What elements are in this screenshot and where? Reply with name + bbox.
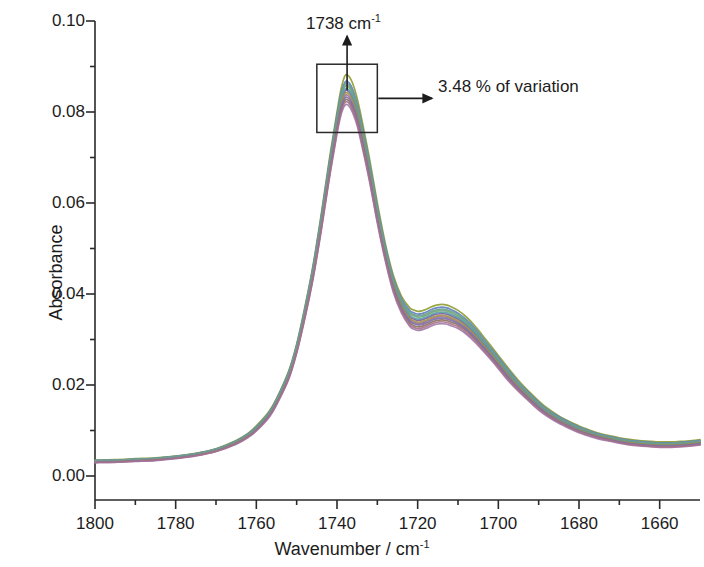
- x-tick-label: 1800: [76, 514, 114, 534]
- spectrum-curve: [95, 95, 700, 462]
- y-tick-label: 0.10: [37, 11, 85, 31]
- x-tick-label: 1780: [157, 514, 195, 534]
- x-axis-title-superscript: -1: [420, 538, 430, 550]
- y-tick-label: 0.08: [37, 102, 85, 122]
- x-axis-title-text: Wavenumber / cm: [274, 539, 419, 559]
- spectrum-curve: [95, 88, 700, 461]
- x-tick-label: 1680: [560, 514, 598, 534]
- spectrum-curve: [95, 90, 700, 461]
- spectrum-curve: [95, 81, 700, 460]
- spectrum-curve: [95, 75, 700, 461]
- spectrum-curve: [95, 93, 700, 462]
- x-tick-label: 1760: [237, 514, 275, 534]
- spectrum-curve: [95, 86, 700, 461]
- ftir-spectrum-figure: 0.000.020.040.060.080.10 180017801760174…: [0, 0, 704, 567]
- x-tick-label: 1660: [641, 514, 679, 534]
- y-axis-title: Absorbance: [46, 173, 67, 373]
- variation-annotation: 3.48 % of variation: [438, 77, 579, 97]
- x-tick-label: 1720: [399, 514, 437, 534]
- y-tick-label: 0.02: [37, 375, 85, 395]
- spectra-curves: [95, 75, 700, 463]
- y-tick-label: 0.00: [37, 466, 85, 486]
- spectrum-curve: [95, 102, 700, 463]
- plot-canvas: [0, 0, 704, 567]
- peak-position-superscript: -1: [371, 12, 381, 24]
- spectrum-curve: [95, 83, 700, 460]
- spectrum-curve: [95, 104, 700, 462]
- peak-position-annotation: 1738 cm-1: [306, 12, 381, 34]
- x-axis-title: Wavenumber / cm-1: [0, 538, 704, 560]
- x-tick-label: 1700: [479, 514, 517, 534]
- spectrum-curve: [95, 99, 700, 462]
- spectrum-curve: [95, 97, 700, 462]
- y-axis-title-text: Absorbance: [46, 224, 66, 320]
- peak-position-text: 1738 cm: [306, 14, 371, 33]
- annotation-shapes: [317, 36, 432, 132]
- x-tick-label: 1740: [318, 514, 356, 534]
